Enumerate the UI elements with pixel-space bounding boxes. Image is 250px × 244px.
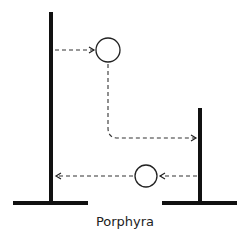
left-pole <box>13 12 88 203</box>
diagram-label: Porphyra <box>0 214 250 229</box>
diagram-canvas <box>0 0 250 244</box>
lower-circle <box>135 165 157 187</box>
right-pole <box>162 108 237 203</box>
arrow-upper-circle-to-right-pole <box>108 64 196 138</box>
upper-circle <box>96 38 120 62</box>
